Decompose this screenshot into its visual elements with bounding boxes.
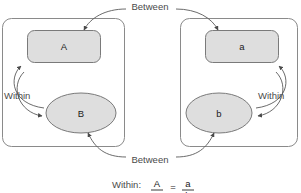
formula-left-denominator: B	[154, 190, 160, 193]
right-within-label: Within	[258, 90, 284, 101]
between-bottom-arrow-right	[176, 133, 214, 157]
formula-right-numerator: a	[185, 178, 191, 189]
formula-prefix: Within:	[112, 179, 141, 190]
between-top-arrow-right	[176, 9, 218, 30]
left-within-label: Within	[4, 90, 30, 101]
rect-a-label: a	[239, 41, 245, 52]
right-within-arc-upper	[256, 66, 286, 108]
diagram-canvas: A B Within a b Within Between Between Wi…	[0, 0, 301, 193]
left-within-arc-upper	[14, 66, 44, 108]
formula-equals: =	[170, 181, 176, 192]
between-bottom-label: Between	[132, 154, 169, 165]
ellipse-b-label: b	[216, 108, 221, 119]
formula-right-denominator: b	[185, 190, 190, 193]
ellipse-B-label: B	[78, 108, 84, 119]
formula-left-numerator: A	[154, 178, 161, 189]
rect-A-label: A	[61, 41, 68, 52]
between-top-label: Between	[132, 1, 169, 12]
